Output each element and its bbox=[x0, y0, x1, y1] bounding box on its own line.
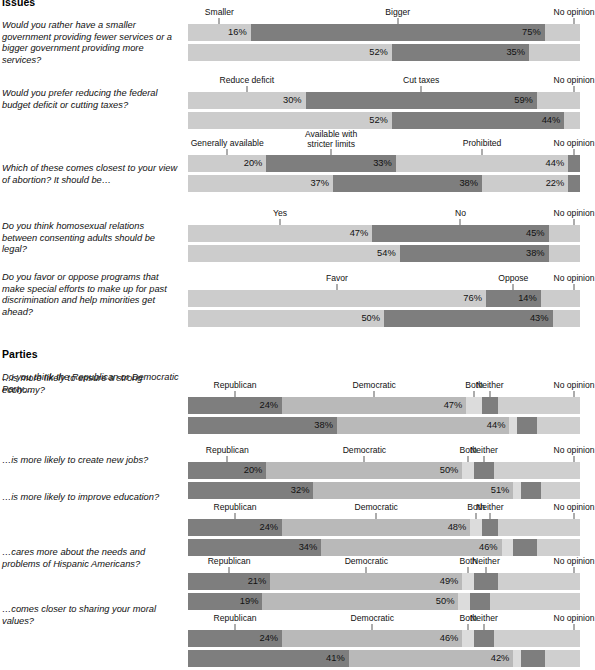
bar-chart: Generally availableAvailable withstricte… bbox=[188, 133, 580, 195]
category-label: Generally available bbox=[191, 139, 264, 149]
category-label-axis: RepublicanDemocraticBothNeitherNo opinio… bbox=[188, 497, 580, 519]
category-label-axis: Reduce deficitCut taxesNo opinion bbox=[188, 70, 580, 92]
bar-segment bbox=[564, 112, 580, 129]
bar-segment bbox=[474, 573, 498, 590]
bar-segment: 44% bbox=[392, 112, 564, 129]
bar-track: 20%50% bbox=[188, 462, 580, 479]
bar-value-label: 46% bbox=[440, 633, 459, 643]
bar-segment bbox=[498, 397, 580, 414]
bar-segment bbox=[553, 310, 580, 327]
bar-value-label: 30% bbox=[283, 95, 302, 105]
category-label: No opinion bbox=[553, 503, 594, 513]
bar-track: 30%59% bbox=[188, 92, 580, 109]
bar-segment bbox=[521, 650, 545, 667]
bar-value-label: 52% bbox=[369, 47, 388, 57]
bar-segment bbox=[498, 519, 580, 536]
bar-segment: 37% bbox=[188, 175, 333, 192]
category-label: No opinion bbox=[553, 381, 594, 391]
category-label: Reduce deficit bbox=[220, 76, 274, 86]
bar-track: 76%14% bbox=[188, 290, 580, 307]
bar-row: Non-Hispanics54%38% bbox=[188, 245, 580, 262]
bar-rows: Hispanics24%47%Non-Hispanics38%44% bbox=[188, 397, 580, 434]
bar-rows: Hispanics76%14%Non-Hispanics50%43% bbox=[188, 290, 580, 327]
question-text: Would you prefer reducing the federal bu… bbox=[2, 88, 180, 111]
bar-value-label: 50% bbox=[440, 465, 459, 475]
bar-rows: Hispanics21%49%Non-Hispanics19%50% bbox=[188, 573, 580, 610]
bar-segment: 44% bbox=[337, 417, 509, 434]
bar-segment: 41% bbox=[188, 650, 349, 667]
question-text: …is more likely to improve education? bbox=[2, 492, 180, 504]
bar-value-label: 19% bbox=[240, 596, 259, 606]
bar-segment: 45% bbox=[372, 225, 548, 242]
bar-segment bbox=[474, 462, 494, 479]
category-label: Yes bbox=[273, 209, 287, 219]
question-text: …comes closer to sharing your moral valu… bbox=[2, 604, 180, 627]
bar-segment: 76% bbox=[188, 290, 486, 307]
category-label: Neither bbox=[470, 614, 498, 624]
bar-segment bbox=[498, 573, 580, 590]
bar-segment bbox=[462, 573, 474, 590]
bar-row: Non-Hispanics37%38%22% bbox=[188, 175, 580, 192]
bar-value-label: 32% bbox=[291, 485, 310, 495]
bar-row: Hispanics24%47% bbox=[188, 397, 580, 414]
bar-segment bbox=[470, 519, 482, 536]
bar-chart: FavorOpposeNo opinionHispanics76%14%Non-… bbox=[188, 268, 580, 330]
category-label: No opinion bbox=[553, 209, 594, 219]
question-text: Do you think homosexual relations betwee… bbox=[2, 221, 180, 256]
bar-value-label: 42% bbox=[491, 653, 510, 663]
bar-segment bbox=[482, 397, 498, 414]
bar-rows: Hispanics30%59%Non-Hispanics52%44% bbox=[188, 92, 580, 129]
bar-value-label: 50% bbox=[436, 596, 455, 606]
bar-value-label: 45% bbox=[526, 228, 545, 238]
bar-value-label: 14% bbox=[518, 293, 537, 303]
bar-track: 50%43% bbox=[188, 310, 580, 327]
bar-row: Hispanics20%50% bbox=[188, 462, 580, 479]
bar-row: Hispanics24%48% bbox=[188, 519, 580, 536]
category-label-axis: RepublicanDemocraticBothNeitherNo opinio… bbox=[188, 551, 580, 573]
category-label: Neither bbox=[476, 503, 504, 513]
bar-chart: RepublicanDemocraticBothNeitherNo opinio… bbox=[188, 608, 580, 670]
category-label: No opinion bbox=[553, 614, 594, 624]
category-label: Democratic bbox=[351, 614, 394, 624]
bar-track: 24%47% bbox=[188, 397, 580, 414]
bar-chart: RepublicanDemocraticBothNeitherNo opinio… bbox=[188, 375, 580, 437]
bar-track: 52%44% bbox=[188, 112, 580, 129]
bar-segment bbox=[541, 290, 580, 307]
bar-segment: 43% bbox=[384, 310, 553, 327]
bar-track: 54%38% bbox=[188, 245, 580, 262]
category-label: Republican bbox=[214, 614, 257, 624]
category-label: Republican bbox=[214, 381, 257, 391]
category-label: No opinion bbox=[553, 8, 594, 18]
bar-segment: 20% bbox=[188, 462, 266, 479]
category-label: No opinion bbox=[553, 139, 594, 149]
category-label: Republican bbox=[206, 446, 249, 456]
category-label: Neither bbox=[476, 381, 504, 391]
category-label-axis: RepublicanDemocraticBothNeitherNo opinio… bbox=[188, 440, 580, 462]
bar-segment: 33% bbox=[266, 155, 395, 172]
bar-segment bbox=[545, 650, 580, 667]
bar-segment bbox=[537, 92, 580, 109]
bar-segment: 24% bbox=[188, 397, 282, 414]
bar-segment: 16% bbox=[188, 24, 251, 41]
bar-track: 24%46% bbox=[188, 630, 580, 647]
bar-segment: 30% bbox=[188, 92, 306, 109]
bar-rows: Hispanics24%46%Non-Hispanics41%42% bbox=[188, 630, 580, 667]
bar-track: 16%75% bbox=[188, 24, 580, 41]
bar-rows: Hispanics47%45%Non-Hispanics54%38% bbox=[188, 225, 580, 262]
question-text: …is more likely to create new jobs? bbox=[2, 455, 180, 467]
bar-segment: 21% bbox=[188, 573, 270, 590]
section-heading-issues: Issues bbox=[2, 0, 35, 8]
question-text: Do you favor or oppose programs that mak… bbox=[2, 272, 180, 318]
bar-segment: 42% bbox=[349, 650, 514, 667]
category-label: Prohibited bbox=[463, 139, 502, 149]
bar-value-label: 44% bbox=[546, 158, 565, 168]
bar-row: Non-Hispanics52%35% bbox=[188, 44, 580, 61]
bar-value-label: 21% bbox=[248, 576, 267, 586]
bar-segment: 47% bbox=[188, 225, 372, 242]
bar-segment: 50% bbox=[266, 462, 462, 479]
bar-segment: 35% bbox=[392, 44, 529, 61]
bar-value-label: 24% bbox=[259, 400, 278, 410]
bar-row: Hispanics20%33%44% bbox=[188, 155, 580, 172]
bar-segment: 38% bbox=[333, 175, 482, 192]
